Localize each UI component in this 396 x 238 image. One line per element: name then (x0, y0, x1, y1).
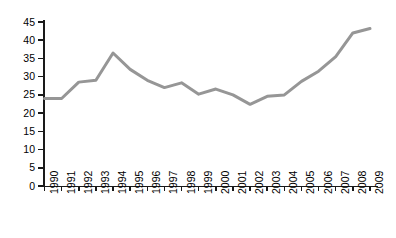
series-line-group (0, 0, 396, 238)
line-chart: 051015202530354045 199019911992199319941… (0, 0, 396, 238)
data-series-line (45, 29, 371, 105)
